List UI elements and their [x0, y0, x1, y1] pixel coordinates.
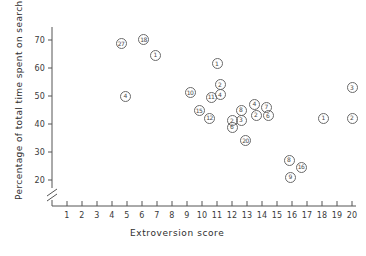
plot-area: 20 30 40 50 60 70 1 2 3 4 5 6 7 8 9 10 1… — [0, 0, 366, 256]
x-tick-label: 6 — [139, 211, 144, 220]
data-point: 1 — [318, 113, 329, 124]
data-point: 1 — [150, 50, 161, 61]
data-point: 27 — [116, 38, 127, 49]
x-tick-label: 9 — [184, 211, 189, 220]
x-tick-label: 19 — [332, 211, 343, 220]
y-tick-label: 60 — [30, 64, 45, 73]
scatter-plot-figure: 20 30 40 50 60 70 1 2 3 4 5 6 7 8 9 10 1… — [0, 0, 366, 256]
data-point: 8 — [236, 105, 247, 116]
data-point: 8 — [284, 155, 295, 166]
data-point: 6 — [263, 110, 274, 121]
data-point: 1 — [212, 58, 223, 69]
x-tick-label: 13 — [242, 211, 253, 220]
x-tick-label: 17 — [302, 211, 313, 220]
data-point: 10 — [185, 87, 196, 98]
y-axis-title: Percentage of total time spent on search — [14, 0, 24, 200]
x-tick-label: 12 — [227, 211, 238, 220]
x-tick-label: 2 — [79, 211, 84, 220]
x-tick-label: 18 — [317, 211, 328, 220]
data-point: 16 — [296, 162, 307, 173]
x-tick-label: 3 — [94, 211, 99, 220]
data-point: 4 — [249, 99, 260, 110]
x-axis-title: Extroversion score — [130, 228, 224, 238]
y-tick-label: 30 — [30, 148, 45, 157]
data-point: 6 — [227, 122, 238, 133]
x-tick-label: 10 — [197, 211, 208, 220]
data-point: 15 — [194, 105, 205, 116]
data-point: 2 — [347, 113, 358, 124]
data-point: 9 — [285, 172, 296, 183]
x-tick-label: 4 — [109, 211, 114, 220]
x-tick-label: 14 — [257, 211, 268, 220]
y-tick-label: 50 — [30, 92, 45, 101]
y-tick-label: 40 — [30, 120, 45, 129]
x-tick-label: 11 — [212, 211, 223, 220]
x-tick-label: 15 — [272, 211, 283, 220]
x-tick-label: 16 — [287, 211, 298, 220]
data-point: 4 — [120, 91, 131, 102]
x-tick-label: 1 — [64, 211, 69, 220]
data-point: 2 — [251, 110, 262, 121]
x-tick-label: 5 — [124, 211, 129, 220]
y-tick-label: 20 — [30, 176, 45, 185]
data-point: 3 — [347, 82, 358, 93]
data-point: 12 — [204, 113, 215, 124]
y-tick-label: 70 — [30, 36, 45, 45]
x-tick-label: 8 — [169, 211, 174, 220]
x-tick-label: 20 — [347, 211, 358, 220]
data-point: 11 — [206, 92, 217, 103]
x-tick-label: 7 — [154, 211, 159, 220]
